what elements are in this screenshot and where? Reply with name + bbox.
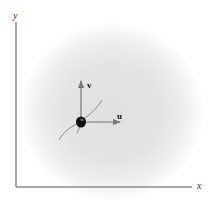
particle-dot [76, 117, 86, 128]
diagram-svg [0, 0, 216, 202]
x-axis-label: x [197, 180, 201, 191]
diagram-canvas: y x v u [0, 0, 216, 202]
particle-highlight [80, 119, 83, 122]
vector-u-label: u [117, 111, 122, 121]
vector-v-label: v [87, 80, 92, 90]
y-axis-label: y [13, 10, 17, 21]
